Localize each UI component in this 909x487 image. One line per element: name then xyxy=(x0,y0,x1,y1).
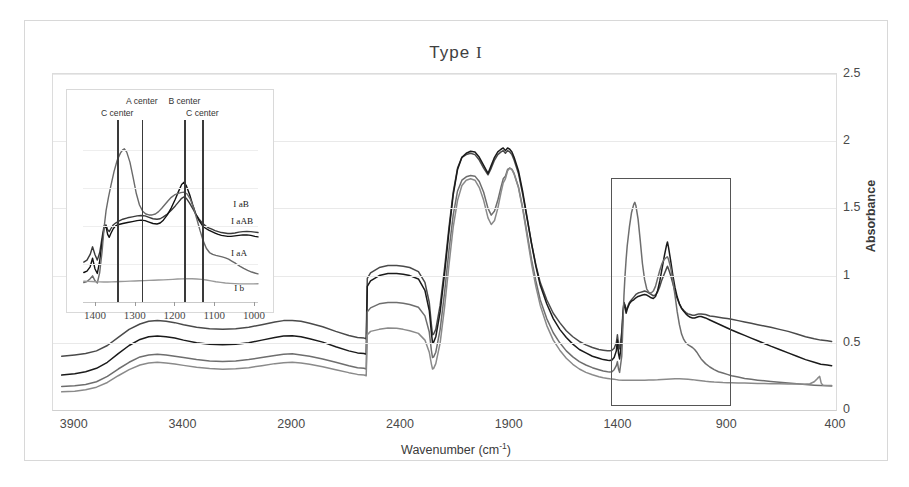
screenshot-root: TypeI 00.511.522.5 Absorbance 3900340029… xyxy=(0,0,909,487)
x-axis-tick-label: 2400 xyxy=(386,417,414,431)
y-axis-tick-label: 1.5 xyxy=(843,200,860,214)
inset-gridline xyxy=(83,264,258,265)
defect-center-label: B center xyxy=(168,96,200,106)
y-axis-tick-label: 1 xyxy=(843,268,850,282)
inset-panel: C centerA centerB centerC center I aBI a… xyxy=(66,89,274,313)
inset-tick-mark xyxy=(135,302,136,306)
inset-tick-mark xyxy=(214,302,215,306)
x-axis-tick-label: 900 xyxy=(716,417,737,431)
inset-x-axis-line xyxy=(83,302,258,303)
defect-center-label: C center xyxy=(186,108,218,118)
inset-spectrum-curve xyxy=(84,182,258,273)
y-axis-tick-label: 2 xyxy=(843,133,850,147)
x-axis-tick-label: 3400 xyxy=(169,417,197,431)
inset-plot-area xyxy=(83,126,258,302)
inset-gridline xyxy=(83,188,258,189)
x-axis-tick-label: 400 xyxy=(825,417,846,431)
defect-center-line xyxy=(202,120,203,302)
inset-x-axis-tick-label: 1400 xyxy=(84,309,106,321)
defect-center-line xyxy=(117,120,118,302)
defect-center-label: A center xyxy=(126,96,158,106)
page-title: TypeI xyxy=(25,43,887,63)
inset-tick-mark xyxy=(254,302,255,306)
gridline xyxy=(53,74,836,75)
inset-series-label: I b xyxy=(234,283,244,293)
y-axis-tick-label: 2.5 xyxy=(843,66,860,80)
zoom-region-box xyxy=(611,178,731,406)
x-axis-tick-label: 1400 xyxy=(604,417,632,431)
chart-title-text: Type xyxy=(429,43,470,62)
figure-frame: TypeI 00.511.522.5 Absorbance 3900340029… xyxy=(24,20,888,461)
inset-x-axis-tick-label: 1300 xyxy=(124,309,146,321)
defect-center-label: C center xyxy=(101,108,133,118)
inset-series-label: I aA xyxy=(231,248,247,258)
inset-gridline xyxy=(83,150,258,151)
inset-series-label: I aAB xyxy=(231,216,253,226)
y-axis-title: Absorbance xyxy=(864,180,878,252)
inset-series-label: I aB xyxy=(233,199,249,209)
y-axis-tick-label: 0 xyxy=(843,402,850,416)
inset-spectra-svg xyxy=(83,126,258,302)
inset-tick-mark xyxy=(95,302,96,306)
chart-title-numeral: I xyxy=(470,43,483,62)
inset-x-axis-tick-label: 1100 xyxy=(203,309,225,321)
defect-center-line xyxy=(184,120,185,302)
inset-x-axis-tick-label: 1200 xyxy=(163,309,185,321)
defect-center-line xyxy=(142,120,143,302)
x-axis-title: Wavenumber (cm-1) xyxy=(25,441,887,457)
y-axis-tick-label: 0.5 xyxy=(843,335,860,349)
inset-x-axis-tick-label: 1000 xyxy=(243,309,265,321)
inset-tick-mark xyxy=(174,302,175,306)
x-axis-tick-label: 2900 xyxy=(277,417,305,431)
inset-spectrum-curve xyxy=(84,279,258,284)
x-axis-tick-label: 1900 xyxy=(495,417,523,431)
x-axis-tick-label: 3900 xyxy=(60,417,88,431)
